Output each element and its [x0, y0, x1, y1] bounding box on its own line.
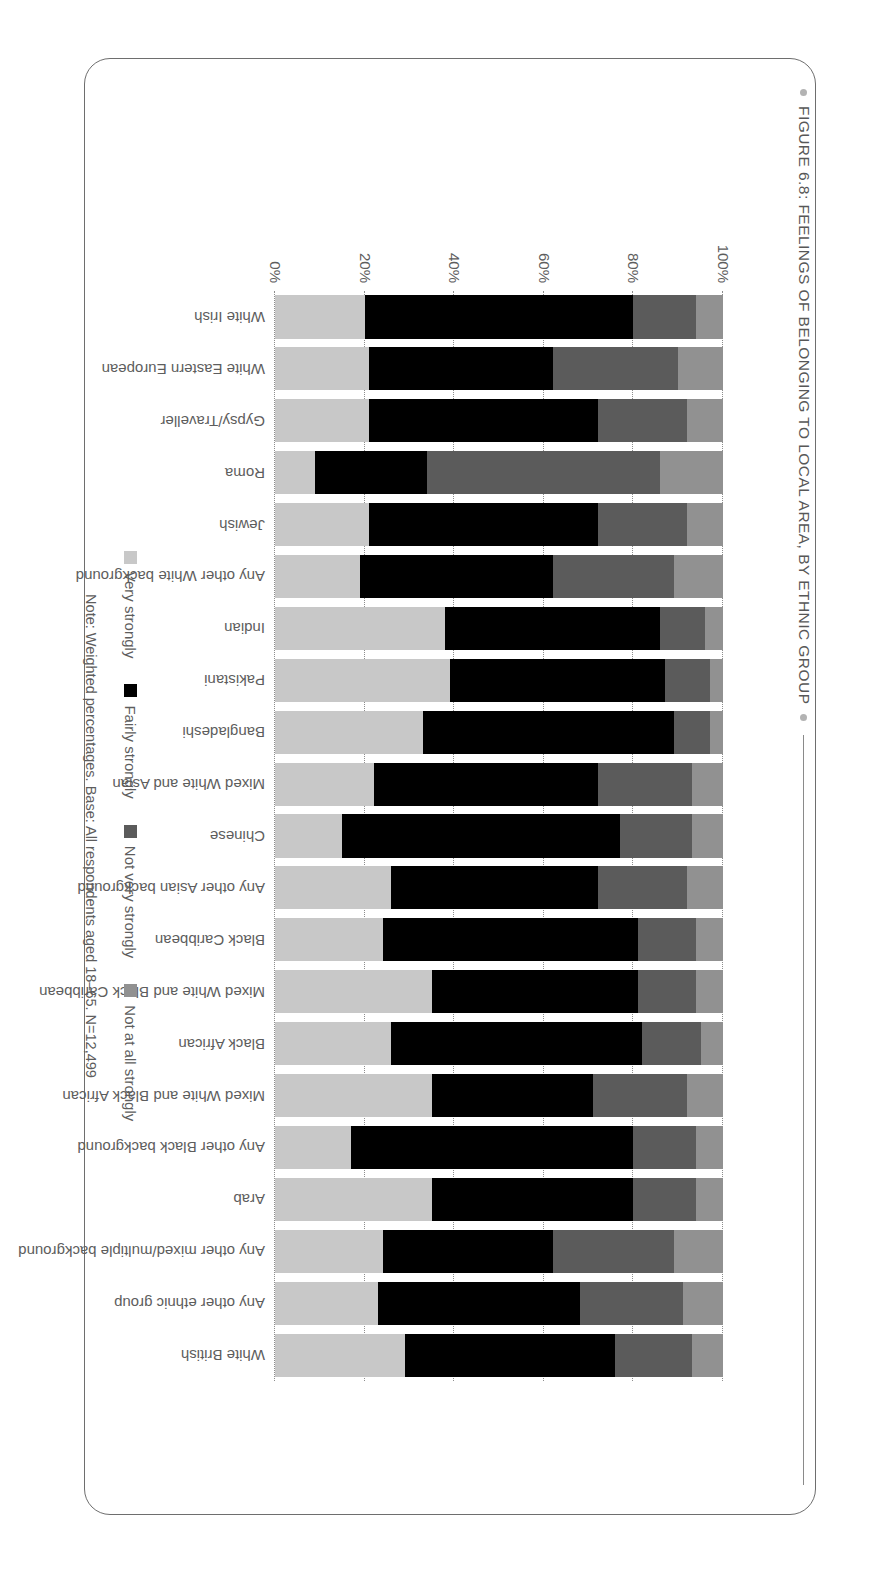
x-axis-tick-label: Any other mixed/multiple background	[18, 1242, 265, 1259]
chart-legend: Very stronglyFairly stronglyNot very str…	[122, 291, 139, 1381]
y-axis-tick-label: 0%	[267, 261, 284, 283]
bar-segment	[351, 1125, 633, 1168]
bar-column[interactable]	[275, 1073, 723, 1116]
bar-segment	[275, 1177, 432, 1220]
bar-segment	[696, 970, 723, 1013]
legend-item[interactable]: Fairly strongly	[122, 684, 139, 798]
bar-segment	[432, 970, 638, 1013]
bar-segment	[275, 866, 391, 909]
bar-segment	[598, 399, 688, 442]
bar-column[interactable]	[275, 347, 723, 390]
bar-segment	[369, 503, 597, 546]
bar-segment	[593, 1073, 687, 1116]
chart-bars	[275, 291, 723, 1381]
bar-segment	[445, 606, 660, 649]
x-axis-tick: Chinese	[31, 814, 271, 857]
figure-page: FIGURE 6.8: FEELINGS OF BELONGING TO LOC…	[39, 63, 839, 1511]
figure-header: FIGURE 6.8: FEELINGS OF BELONGING TO LOC…	[795, 89, 813, 1485]
legend-item[interactable]: Not very strongly	[122, 824, 139, 958]
bar-segment	[275, 1073, 432, 1116]
bar-segment	[665, 658, 710, 701]
bar-segment	[710, 710, 723, 753]
bar-segment	[620, 814, 692, 857]
x-axis-tick-label: Any other Black background	[77, 1138, 265, 1155]
bar-column[interactable]	[275, 658, 723, 701]
bar-column[interactable]	[275, 1229, 723, 1272]
bar-column[interactable]	[275, 554, 723, 597]
bar-segment	[660, 606, 705, 649]
bar-segment	[638, 918, 696, 961]
bar-segment	[405, 1333, 616, 1376]
bar-segment	[696, 295, 723, 338]
x-axis: White IrishWhite Eastern EuropeanGypsy/T…	[31, 291, 271, 1381]
bar-column[interactable]	[275, 762, 723, 805]
x-axis-tick: Any other White background	[31, 554, 271, 597]
bar-column[interactable]	[275, 814, 723, 857]
bar-column[interactable]	[275, 1281, 723, 1324]
x-axis-tick-label: Any other White background	[76, 567, 265, 584]
x-axis-tick: White Eastern European	[31, 347, 271, 390]
bar-segment	[450, 658, 665, 701]
bar-segment	[660, 451, 723, 494]
bar-segment	[674, 554, 723, 597]
chart-plot-area: 0%20%40%60%80%100% White IrishWhite East…	[275, 291, 723, 1381]
bar-segment	[683, 1281, 723, 1324]
x-axis-tick: Black Caribbean	[31, 918, 271, 961]
bar-segment	[687, 1073, 723, 1116]
bar-segment	[374, 762, 598, 805]
legend-swatch-icon	[124, 550, 137, 563]
bar-segment	[692, 1333, 723, 1376]
x-axis-tick-label: Bangladeshi	[182, 723, 265, 740]
x-axis-tick: Jewish	[31, 503, 271, 546]
x-axis-tick: Any other Asian background	[31, 866, 271, 909]
bullet-icon-left	[801, 89, 808, 96]
bar-segment	[275, 1229, 383, 1272]
bar-column[interactable]	[275, 1022, 723, 1065]
bar-column[interactable]	[275, 970, 723, 1013]
bar-column[interactable]	[275, 503, 723, 546]
bar-column[interactable]	[275, 1125, 723, 1168]
legend-label: Fairly strongly	[122, 705, 139, 798]
x-axis-tick-label: Mixed White and Black Caribbean	[39, 983, 265, 1000]
bar-column[interactable]	[275, 1333, 723, 1376]
bar-column[interactable]	[275, 451, 723, 494]
bar-segment	[427, 451, 660, 494]
bar-segment	[692, 762, 723, 805]
legend-label: Not very strongly	[122, 845, 139, 958]
legend-swatch-icon	[124, 824, 137, 837]
legend-item[interactable]: Very strongly	[122, 550, 139, 658]
figure-note: Note: Weighted percentages. Base: All re…	[83, 291, 99, 1381]
x-axis-tick: White Irish	[31, 295, 271, 338]
bar-segment	[275, 503, 369, 546]
bar-column[interactable]	[275, 606, 723, 649]
bar-column[interactable]	[275, 710, 723, 753]
bar-segment	[275, 1333, 405, 1376]
bar-segment	[687, 866, 723, 909]
x-axis-tick-label: Roma	[225, 464, 265, 481]
y-axis-tick-label: 100%	[715, 244, 732, 282]
bar-column[interactable]	[275, 918, 723, 961]
bar-segment	[369, 347, 553, 390]
x-axis-tick: Indian	[31, 606, 271, 649]
bar-segment	[615, 1333, 691, 1376]
x-axis-tick: Roma	[31, 451, 271, 494]
bar-column[interactable]	[275, 866, 723, 909]
x-axis-tick: Any other ethnic group	[31, 1281, 271, 1324]
x-axis-tick-label: Indian	[224, 619, 265, 636]
bar-segment	[315, 451, 427, 494]
bar-segment	[432, 1073, 593, 1116]
bar-column[interactable]	[275, 295, 723, 338]
bar-segment	[553, 347, 678, 390]
y-axis-tick-label: 60%	[535, 252, 552, 282]
x-axis-tick-label: Jewish	[219, 516, 265, 533]
bar-segment	[598, 503, 688, 546]
legend-item[interactable]: Not at all strongly	[122, 984, 139, 1121]
bar-segment	[342, 814, 620, 857]
bar-segment	[553, 1229, 674, 1272]
bar-column[interactable]	[275, 1177, 723, 1220]
bar-segment	[696, 1125, 723, 1168]
bar-segment	[705, 606, 723, 649]
bar-segment	[580, 1281, 683, 1324]
bar-column[interactable]	[275, 399, 723, 442]
bar-segment	[365, 295, 634, 338]
